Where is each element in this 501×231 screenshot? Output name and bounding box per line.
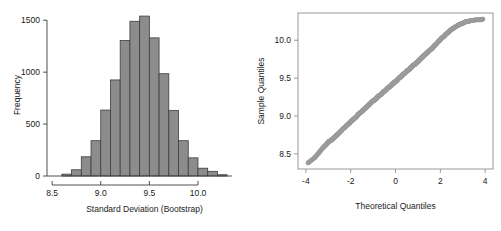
x-axis-tick-label: 4 bbox=[483, 176, 488, 186]
y-axis-tick-label: 9.0 bbox=[279, 111, 291, 121]
x-axis-tick-label: -2 bbox=[347, 176, 355, 186]
x-axis-tick-label: 10.0 bbox=[190, 188, 207, 198]
histogram-bar bbox=[110, 80, 120, 176]
histogram-bars bbox=[62, 16, 227, 176]
histogram-bar bbox=[198, 168, 208, 176]
qq-point bbox=[317, 150, 322, 155]
y-axis-title: Sample Quantiles bbox=[256, 57, 266, 124]
x-axis-title: Standard Deviation (Bootstrap) bbox=[86, 204, 203, 214]
qq-point bbox=[481, 17, 486, 22]
qq-plot: 8.59.09.510.0-4-2024Theoretical Quantile… bbox=[250, 0, 501, 231]
histogram-bar bbox=[179, 141, 189, 176]
y-axis-tick-label: 9.5 bbox=[279, 73, 291, 83]
y-axis-tick-label: 1000 bbox=[21, 67, 40, 77]
histogram-bar bbox=[81, 157, 91, 176]
histogram-bar bbox=[120, 40, 130, 176]
y-axis-tick-label: 8.5 bbox=[279, 149, 291, 159]
y-axis-title: Frequency bbox=[12, 74, 22, 115]
histogram-bar bbox=[101, 110, 111, 176]
y-axis-tick-label: 500 bbox=[26, 119, 40, 129]
qq-point bbox=[469, 18, 474, 23]
histogram-bar bbox=[91, 141, 101, 176]
histogram-panel: 0500100015008.59.09.510.0Standard Deviat… bbox=[0, 0, 250, 231]
x-axis-title: Theoretical Quantiles bbox=[355, 201, 435, 211]
y-axis-tick-label: 1500 bbox=[21, 15, 40, 25]
qq-plot-panel: 8.59.09.510.0-4-2024Theoretical Quantile… bbox=[250, 0, 501, 231]
y-axis-tick-label: 10.0 bbox=[274, 35, 291, 45]
histogram-bar bbox=[140, 16, 150, 176]
x-axis-tick-label: 9.0 bbox=[95, 188, 107, 198]
qq-points bbox=[306, 17, 486, 166]
histogram-bar bbox=[159, 74, 169, 176]
x-axis-tick-label: 9.5 bbox=[143, 188, 155, 198]
y-axis-tick-label: 0 bbox=[35, 171, 40, 181]
histogram-bar bbox=[208, 171, 218, 176]
histogram-bar bbox=[72, 170, 82, 176]
histogram-plot: 0500100015008.59.09.510.0Standard Deviat… bbox=[0, 0, 250, 231]
x-axis-tick-label: -4 bbox=[302, 176, 310, 186]
histogram-bar bbox=[169, 111, 179, 176]
x-axis-tick-label: 2 bbox=[438, 176, 443, 186]
qq-point bbox=[312, 155, 317, 160]
x-axis-tick-label: 8.5 bbox=[46, 188, 58, 198]
histogram-bar bbox=[188, 158, 198, 176]
x-axis-tick-label: 0 bbox=[393, 176, 398, 186]
qq-point bbox=[306, 161, 311, 166]
histogram-bar bbox=[149, 38, 159, 176]
histogram-bar bbox=[130, 21, 140, 176]
